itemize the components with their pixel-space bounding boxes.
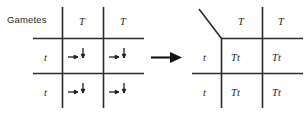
right-square-cell-r0c0: Tt [231, 53, 240, 64]
right-square-cell-r1c1: Tt [272, 88, 281, 99]
right-square-row-header-1: t [203, 88, 206, 99]
right-square-cell-r1c0: Tt [231, 88, 240, 99]
punnett-square-figure: Gametes T T t t T T t t Tt Tt Tt Tt [0, 0, 306, 115]
left-square-row-header-1: t [44, 88, 47, 99]
right-square-cell-r0c1: Tt [272, 53, 281, 64]
figure-text-layer: Gametes T T t t T T t t Tt Tt Tt Tt [0, 0, 306, 115]
right-square-column-header-0: T [238, 17, 244, 28]
left-square-row-header-0: t [44, 53, 47, 64]
left-square-column-header-1: T [120, 17, 126, 28]
right-square-column-header-1: T [278, 17, 284, 28]
right-square-row-header-0: t [203, 53, 206, 64]
gametes-label: Gametes [7, 15, 47, 25]
left-square-column-header-0: T [79, 17, 85, 28]
